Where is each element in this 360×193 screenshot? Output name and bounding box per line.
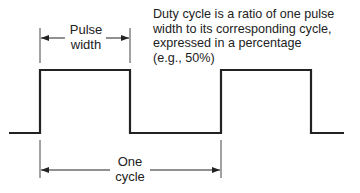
description-line: (e.g., 50%) — [153, 51, 334, 66]
one-cycle-label-line1: One — [110, 154, 150, 169]
description-line: width to its corresponding cycle, — [153, 22, 334, 37]
description-line: Duty cycle is a ratio of one pulse — [153, 7, 334, 22]
duty-cycle-description: Duty cycle is a ratio of one pulse width… — [153, 7, 334, 65]
one-cycle-label: One cycle — [110, 154, 150, 184]
pulse-width-label-line2: width — [66, 37, 106, 52]
square-wave — [9, 70, 344, 133]
pulse-width-label-line1: Pulse — [66, 22, 106, 37]
description-line: expressed in a percentage — [153, 36, 334, 51]
pulse-width-label: Pulse width — [66, 22, 106, 52]
one-cycle-label-line2: cycle — [110, 169, 150, 184]
